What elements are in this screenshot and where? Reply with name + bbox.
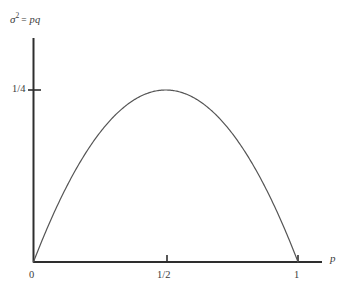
x-tick-label-zero: 0 (29, 270, 34, 281)
variance-plot-figure: σ2=pq 1/4 0 1/2 1 p (0, 0, 345, 290)
x-tick-label-half: 1/2 (157, 270, 170, 281)
variance-curve (34, 90, 299, 262)
equals-sign: = (19, 15, 29, 25)
x-tick-label-one: 1 (294, 270, 299, 281)
y-tick-label-quarter: 1/4 (12, 84, 25, 95)
y-axis-caption: σ2=pq (10, 12, 40, 25)
x-axis-caption: p (330, 253, 336, 264)
pq-expression: pq (30, 14, 41, 25)
plot-canvas (0, 0, 345, 290)
